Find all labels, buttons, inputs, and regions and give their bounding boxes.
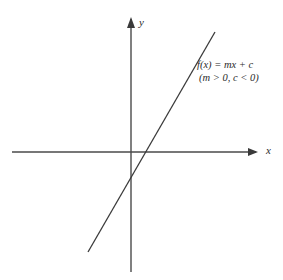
annotation-condition: (m > 0, c < 0)	[197, 71, 259, 84]
function-annotation: f(x) = mx + c (m > 0, c < 0)	[197, 58, 259, 84]
x-axis-label: x	[266, 145, 271, 156]
graph-canvas	[0, 0, 283, 280]
y-axis-arrowhead-icon	[127, 17, 135, 28]
x-axis-arrowhead-icon	[248, 148, 258, 156]
annotation-equation: f(x) = mx + c	[197, 58, 259, 71]
y-axis-label: y	[139, 17, 144, 28]
function-line	[88, 32, 215, 252]
linear-function-figure: y x f(x) = mx + c (m > 0, c < 0)	[0, 0, 283, 280]
